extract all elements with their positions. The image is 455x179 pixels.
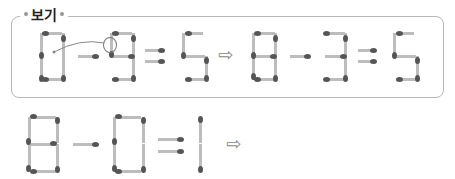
- transform-arrow-icon: ⇨: [218, 44, 233, 65]
- answer-arrow-icon: ⇨: [226, 133, 241, 154]
